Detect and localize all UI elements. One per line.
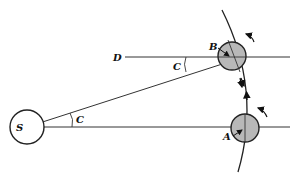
rotation-arrow-b-icon [246, 34, 254, 42]
sidereal-synodic-diagram: S C C D B A [0, 0, 298, 179]
sun-label: S [16, 122, 23, 133]
angle-c-d-label: C [173, 61, 181, 72]
angle-arc-at-sun [70, 113, 73, 127]
point-b-label: B [208, 41, 217, 52]
point-a-label: A [222, 131, 231, 142]
point-d-label: D [112, 52, 122, 63]
orbit-arc [222, 10, 247, 172]
orbit-direction-arrow-icon [247, 92, 248, 100]
rotation-arrow-a-icon [258, 108, 267, 117]
angle-arc-at-d [185, 57, 187, 72]
angle-c-sun-label: C [76, 114, 84, 125]
line-s-b [27, 57, 244, 127]
